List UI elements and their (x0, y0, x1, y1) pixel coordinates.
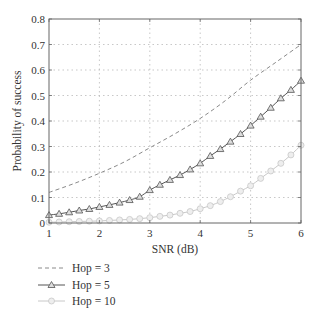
legend-label: Hop = 3 (72, 262, 110, 275)
x-tick-label: 4 (197, 227, 203, 239)
legend-item-hop-3: Hop = 3 (38, 262, 110, 275)
y-tick-label: 0.2 (31, 166, 45, 178)
line-chart: 123456 00.10.20.30.40.50.60.70.8 SNR (dB… (0, 0, 317, 314)
circle-marker (66, 219, 72, 225)
circle-marker (268, 168, 274, 174)
y-tick-label: 0.8 (31, 13, 45, 25)
triangle-marker (166, 176, 173, 182)
triangle-marker (227, 138, 234, 144)
x-tick-label: 2 (97, 227, 103, 239)
legend-item-hop-5: Hop = 5 (38, 279, 110, 292)
grid-lines (49, 19, 301, 223)
circle-marker (258, 175, 264, 181)
x-tick-label: 1 (46, 227, 52, 239)
circle-marker (187, 209, 193, 215)
circle-marker (157, 213, 163, 219)
x-axis-label: SNR (dB) (152, 243, 198, 256)
circle-marker (127, 216, 133, 222)
y-tick-label: 0 (40, 217, 46, 229)
legend-label: Hop = 5 (72, 279, 110, 292)
triangle-marker (177, 172, 184, 178)
triangle-marker (207, 152, 214, 158)
circle-marker (238, 188, 244, 194)
triangle-marker (156, 181, 163, 187)
y-tick-label: 0.1 (31, 192, 45, 204)
circle-marker (248, 183, 254, 189)
triangle-marker (136, 193, 143, 199)
y-tick-label: 0.7 (31, 39, 45, 51)
triangle-marker (146, 187, 153, 193)
plot-series (46, 45, 305, 226)
legend-label: Hop = 10 (72, 295, 116, 308)
y-tick-label: 0.3 (31, 141, 45, 153)
circle-marker (227, 194, 233, 200)
triangle-marker (217, 146, 224, 152)
x-tick-label: 3 (147, 227, 153, 239)
y-tick-label: 0.4 (31, 115, 45, 127)
triangle-marker (197, 160, 204, 166)
circle-marker (197, 206, 203, 212)
circle-marker (117, 217, 123, 223)
series-hop-5 (46, 77, 305, 217)
y-tick-label: 0.6 (31, 64, 45, 76)
circle-marker (217, 199, 223, 205)
y-tick-label: 0.5 (31, 90, 45, 102)
circle-marker (137, 216, 143, 222)
legend-item-hop-10: Hop = 10 (38, 295, 116, 308)
x-axis-ticks: 123456 (46, 19, 304, 239)
circle-marker (76, 218, 82, 224)
triangle-marker (187, 166, 194, 172)
circle-marker (207, 203, 213, 209)
circle-marker (288, 152, 294, 158)
circle-marker-icon (49, 298, 55, 304)
circle-marker (177, 210, 183, 216)
circle-marker (167, 212, 173, 218)
circle-marker (56, 219, 62, 225)
circle-marker (147, 215, 153, 221)
x-tick-label: 5 (248, 227, 254, 239)
circle-marker (278, 160, 284, 166)
y-axis-label: Probability of success (11, 70, 24, 171)
legend: Hop = 3 Hop = 5 Hop = 10 (38, 262, 116, 308)
x-tick-label: 6 (298, 227, 304, 239)
series-hop-10 (46, 142, 304, 225)
